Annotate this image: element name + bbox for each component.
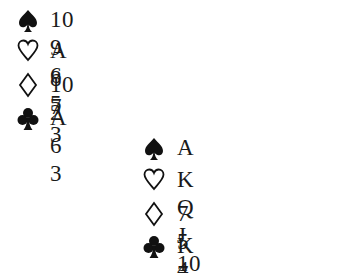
club-icon: [143, 234, 165, 260]
spade-icon: [143, 136, 165, 162]
hearts-row: [143, 166, 165, 194]
clubs-row: [143, 233, 165, 261]
spades-row: [17, 7, 39, 35]
diamonds-row: [17, 71, 39, 99]
hearts-row: [17, 37, 39, 65]
clubs-row: [17, 105, 39, 133]
clubs-cards: K 7: [177, 232, 194, 273]
spades-row: [143, 135, 165, 163]
diamonds-row: [143, 200, 165, 228]
diamond-icon: [143, 201, 165, 227]
heart-icon: [143, 167, 165, 193]
diamond-icon: [17, 72, 39, 98]
spades-cards: A: [177, 134, 194, 162]
club-icon: [17, 106, 39, 132]
clubs-cards: A 6 3: [50, 104, 66, 188]
heart-icon: [17, 38, 39, 64]
spade-icon: [17, 8, 39, 34]
